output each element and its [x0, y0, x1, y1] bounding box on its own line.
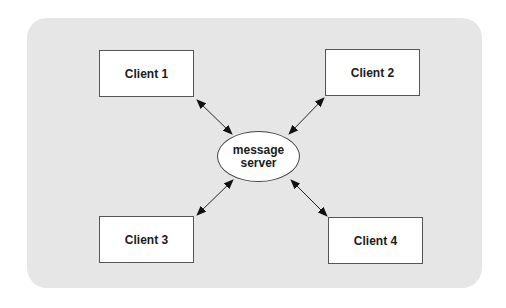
client-1-label: Client 1 — [125, 67, 168, 81]
message-server-node: message server — [217, 131, 300, 182]
client-3-box: Client 3 — [99, 216, 194, 263]
client-1-box: Client 1 — [99, 50, 194, 97]
server-label-line2: server — [240, 157, 276, 170]
client-3-label: Client 3 — [125, 233, 168, 247]
client-4-label: Client 4 — [354, 234, 397, 248]
client-2-box: Client 2 — [325, 49, 420, 96]
server-label-line1: message — [233, 144, 284, 157]
client-2-label: Client 2 — [351, 66, 394, 80]
client-4-box: Client 4 — [328, 217, 423, 264]
